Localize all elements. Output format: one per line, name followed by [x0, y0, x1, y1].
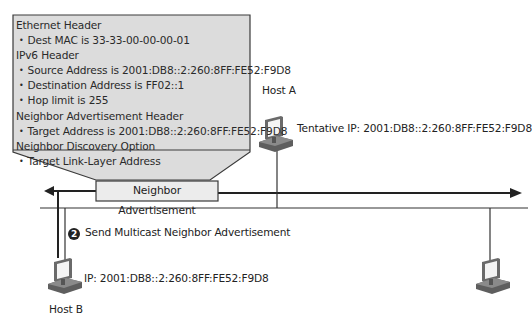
host-a-name: Host A	[262, 84, 296, 96]
host-b-ip: IP: 2001:DB8::2:260:8FF:FE52:F9D8	[84, 272, 269, 284]
section-header: Ethernet Header	[16, 18, 291, 33]
section-item: Target Link-Layer Address	[16, 154, 291, 169]
section-item: Dest MAC is 33-33-00-00-00-01	[16, 33, 291, 48]
host-c-computer-icon	[476, 258, 510, 294]
section-item: Hop limit is 255	[16, 93, 291, 108]
section-header: IPv6 Header	[16, 48, 291, 63]
step-number-badge: 2	[68, 228, 80, 240]
host-a-ip: Tentative IP: 2001:DB8::2:260:8FF:FE52:F…	[297, 122, 532, 134]
section-item: Target Address is 2001:DB8::2:260:8FF:FE…	[16, 124, 291, 139]
section-item: Source Address is 2001:DB8::2:260:8FF:FE…	[16, 63, 291, 78]
section-item: Destination Address is FF02::1	[16, 78, 291, 93]
host-b-computer-icon	[48, 258, 82, 294]
section-header: Neighbor Advertisement Header	[16, 109, 291, 124]
callout-content: Ethernet Header Dest MAC is 33-33-00-00-…	[16, 18, 291, 169]
packet-label: Neighbor Advertisement	[96, 181, 218, 201]
step-label: 2Send Multicast Neighbor Advertisement	[68, 226, 290, 240]
section-header: Neighbor Discovery Option	[16, 139, 291, 154]
host-b-name: Host B	[49, 303, 83, 315]
step-text: Send Multicast Neighbor Advertisement	[85, 226, 290, 238]
